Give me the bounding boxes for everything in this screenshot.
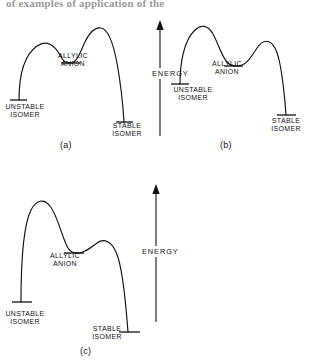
label-allylic-anion-b: ALLYLIC ANION — [201, 60, 253, 77]
label-stable-isomer-a: STABLE ISOMER — [105, 122, 150, 139]
caption-b: (b) — [220, 140, 232, 150]
label-allylic-anion-a: ALLYLIC ANION — [46, 52, 100, 69]
label-allylic-anion-c: ALLYLIC ANION — [37, 252, 93, 269]
caption-a: (a) — [60, 140, 72, 150]
label-stable-isomer-c: STABLE ISOMER — [83, 325, 132, 342]
arrow-head-up-icon-bottom — [152, 184, 159, 194]
energy-label-bottom: ENERGY — [140, 246, 181, 257]
label-unstable-isomer-b: UNSTABLE ISOMER — [168, 86, 218, 103]
page-running-text: of examples of application of the — [6, 0, 306, 9]
label-unstable-isomer-c: UNSTABLE ISOMER — [0, 310, 51, 327]
label-stable-isomer-b: STABLE ISOMER — [263, 117, 310, 134]
label-unstable-isomer-a: UNSTABLE ISOMER — [0, 103, 50, 120]
caption-c: (c) — [80, 346, 91, 356]
